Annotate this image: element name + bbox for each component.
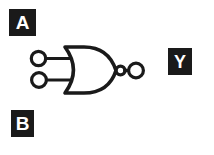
output-terminal-icon [129, 63, 144, 78]
nor-gate-symbol [0, 0, 214, 155]
or-gate-body [65, 47, 116, 93]
input-a-terminal-icon [31, 51, 45, 65]
logic-gate-diagram: A B Y [0, 0, 214, 155]
input-b-terminal-icon [32, 73, 47, 88]
